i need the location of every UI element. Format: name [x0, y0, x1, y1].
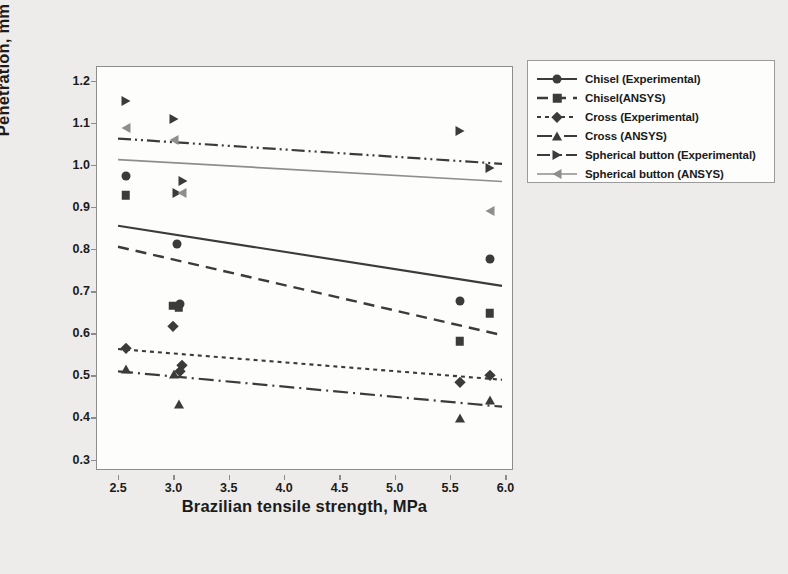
data-point-marker [456, 337, 465, 346]
x-tick-mark [450, 475, 451, 480]
trend-line [118, 160, 502, 182]
legend-marker-icon [553, 150, 562, 160]
data-point-marker [485, 206, 494, 216]
chart-legend: Chisel (Experimental)Chisel(ANSYS)Cross … [527, 60, 775, 183]
data-point-marker [122, 191, 131, 200]
data-point-marker [485, 255, 494, 264]
y-tick-label: 1.2 [56, 74, 90, 88]
plot-area [96, 66, 513, 470]
x-tick-label: 3.0 [153, 481, 193, 495]
x-tick-mark [229, 475, 230, 480]
x-axis-title: Brazilian tensile strength, MPa [96, 497, 513, 516]
x-tick-label: 5.5 [430, 481, 470, 495]
legend-key [536, 147, 578, 163]
data-point-marker [179, 176, 188, 186]
data-point-marker [121, 364, 131, 373]
legend-item[interactable]: Spherical button (Experimental) [536, 146, 768, 164]
legend-marker-icon [553, 75, 562, 84]
trend-line [118, 226, 502, 286]
legend-item-label: Spherical button (ANSYS) [585, 168, 724, 180]
x-tick-label: 3.5 [209, 481, 249, 495]
x-tick-label: 6.0 [485, 481, 525, 495]
legend-key [536, 128, 578, 144]
x-tick-label: 2.5 [98, 481, 138, 495]
x-axis-tick-labels: 2.53.03.54.04.55.05.56.0 [96, 474, 513, 494]
x-tick-mark [339, 475, 340, 480]
y-tick-label: 0.4 [56, 410, 90, 424]
plot-inner [97, 67, 512, 469]
y-tick-label: 0.8 [56, 242, 90, 256]
x-tick-label: 4.5 [319, 481, 359, 495]
data-point-marker [170, 114, 179, 124]
data-point-marker [486, 309, 495, 318]
legend-item-label: Cross (Experimental) [585, 111, 699, 123]
data-point-marker [175, 304, 184, 313]
data-point-marker [121, 172, 130, 181]
x-tick-mark [395, 475, 396, 480]
legend-marker-icon [553, 169, 562, 179]
data-point-marker [169, 370, 179, 379]
legend-marker-icon [553, 94, 562, 103]
x-tick-label: 5.0 [375, 481, 415, 495]
legend-item-label: Chisel(ANSYS) [585, 92, 666, 104]
chart-root: Penetration, mm 1.21.11.00.90.80.70.60.5… [0, 0, 788, 574]
legend-key [536, 109, 578, 125]
data-point-marker [174, 399, 184, 408]
y-tick-label: 0.3 [56, 453, 90, 467]
data-point-marker [485, 163, 494, 173]
data-point-marker [121, 96, 130, 106]
data-point-marker [455, 126, 464, 136]
data-point-marker [170, 135, 179, 145]
legend-item[interactable]: Chisel (Experimental) [536, 70, 768, 88]
legend-key [536, 90, 578, 106]
y-tick-label: 0.9 [56, 200, 90, 214]
y-tick-label: 0.5 [56, 368, 90, 382]
y-tick-label: 1.1 [56, 116, 90, 130]
legend-key [536, 166, 578, 182]
x-tick-mark [284, 475, 285, 480]
x-tick-mark [505, 475, 506, 480]
trend-line [118, 247, 502, 335]
legend-item-label: Cross (ANSYS) [585, 130, 667, 142]
legend-item[interactable]: Cross (ANSYS) [536, 127, 768, 145]
x-tick-mark [173, 475, 174, 480]
data-point-marker [485, 396, 495, 405]
y-tick-label: 1.0 [56, 158, 90, 172]
legend-item[interactable]: Chisel(ANSYS) [536, 89, 768, 107]
legend-key [536, 71, 578, 87]
y-axis-title: Penetration, mm [0, 0, 13, 190]
legend-item-label: Spherical button (Experimental) [585, 149, 756, 161]
data-point-marker [455, 413, 465, 422]
legend-item[interactable]: Spherical button (ANSYS) [536, 165, 768, 183]
y-axis-tick-labels: 1.21.11.00.90.80.70.60.50.40.3 [52, 0, 90, 574]
legend-marker-icon [552, 132, 562, 141]
data-point-marker [455, 296, 464, 305]
legend-item-label: Chisel (Experimental) [585, 73, 701, 85]
legend-item[interactable]: Cross (Experimental) [536, 108, 768, 126]
y-tick-label: 0.6 [56, 326, 90, 340]
x-tick-mark [118, 475, 119, 480]
data-point-marker [121, 123, 130, 133]
data-point-marker [178, 188, 187, 198]
data-point-marker [172, 239, 181, 248]
y-tick-label: 0.7 [56, 284, 90, 298]
series-canvas [97, 67, 512, 469]
x-tick-label: 4.0 [264, 481, 304, 495]
